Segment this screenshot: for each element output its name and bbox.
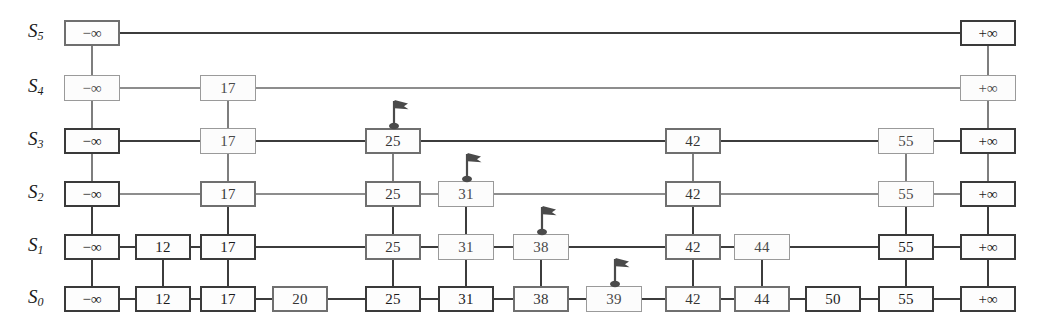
link-vertical (905, 207, 907, 234)
link-horizontal (569, 246, 665, 248)
skip-node-S4-17[interactable]: 17 (200, 75, 256, 101)
link-horizontal (642, 298, 665, 300)
row-label-letter: S (28, 286, 38, 307)
link-horizontal (934, 193, 960, 195)
row-label-S1: S1 (28, 234, 44, 258)
row-label-S2: S2 (28, 181, 44, 205)
link-horizontal (191, 298, 200, 300)
link-vertical (227, 101, 229, 128)
link-vertical (227, 260, 229, 286)
skip-node-S2-25[interactable]: 25 (365, 181, 421, 207)
link-vertical (91, 101, 93, 128)
link-horizontal (421, 298, 438, 300)
skip-node-S4-pos-inf[interactable]: +∞ (960, 75, 1016, 101)
link-vertical (692, 207, 694, 234)
link-vertical (987, 207, 989, 234)
link-horizontal (494, 193, 665, 195)
skip-node-S2-55[interactable]: 55 (878, 181, 934, 207)
skip-node-S5-neg-inf[interactable]: −∞ (64, 20, 120, 46)
skip-node-S0-38[interactable]: 38 (513, 286, 569, 312)
skip-node-S3-neg-inf[interactable]: −∞ (64, 128, 120, 154)
skip-node-S1-neg-inf[interactable]: −∞ (64, 234, 120, 260)
skip-node-S2-neg-inf[interactable]: −∞ (64, 181, 120, 207)
link-horizontal (861, 298, 878, 300)
link-vertical (987, 46, 989, 75)
link-horizontal (790, 246, 878, 248)
row-label-index: 0 (38, 295, 44, 309)
skip-node-S0-42[interactable]: 42 (665, 286, 721, 312)
skip-node-S2-pos-inf[interactable]: +∞ (960, 181, 1016, 207)
link-horizontal (256, 246, 365, 248)
row-label-letter: S (28, 128, 38, 149)
link-horizontal (421, 140, 665, 142)
row-label-letter: S (28, 75, 38, 96)
link-horizontal (790, 298, 805, 300)
skip-node-S1-44[interactable]: 44 (734, 234, 790, 260)
link-vertical (692, 260, 694, 286)
link-horizontal (421, 246, 438, 248)
link-vertical (227, 207, 229, 234)
link-horizontal (256, 140, 365, 142)
link-vertical (465, 260, 467, 286)
row-label-S4: S4 (28, 75, 44, 99)
skip-node-S0-50[interactable]: 50 (805, 286, 861, 312)
link-vertical (465, 207, 467, 234)
skip-node-S2-31[interactable]: 31 (438, 181, 494, 207)
skip-node-S0-pos-inf[interactable]: +∞ (960, 286, 1016, 312)
link-horizontal (934, 140, 960, 142)
skip-node-S5-pos-inf[interactable]: +∞ (960, 20, 1016, 46)
skip-node-S1-12[interactable]: 12 (135, 234, 191, 260)
link-vertical (91, 260, 93, 286)
link-vertical (540, 260, 542, 286)
skip-node-S0-20[interactable]: 20 (272, 286, 328, 312)
link-vertical (91, 207, 93, 234)
link-horizontal (120, 298, 135, 300)
skip-node-S1-17[interactable]: 17 (200, 234, 256, 260)
skip-node-S1-25[interactable]: 25 (365, 234, 421, 260)
skip-node-S0-31[interactable]: 31 (438, 286, 494, 312)
skip-node-S3-42[interactable]: 42 (665, 128, 721, 154)
link-horizontal (120, 87, 200, 89)
skip-node-S1-42[interactable]: 42 (665, 234, 721, 260)
skip-node-S1-pos-inf[interactable]: +∞ (960, 234, 1016, 260)
skip-node-S3-17[interactable]: 17 (200, 128, 256, 154)
link-vertical (91, 154, 93, 181)
skip-node-S0-12[interactable]: 12 (135, 286, 191, 312)
skip-node-S3-55[interactable]: 55 (878, 128, 934, 154)
search-position-flag-icon (536, 202, 562, 236)
link-horizontal (421, 193, 438, 195)
link-vertical (392, 260, 394, 286)
skip-node-S3-25[interactable]: 25 (365, 128, 421, 154)
link-horizontal (120, 193, 200, 195)
link-horizontal (328, 298, 365, 300)
link-vertical (392, 207, 394, 234)
skip-node-S0-neg-inf[interactable]: −∞ (64, 286, 120, 312)
skip-node-S1-38[interactable]: 38 (513, 234, 569, 260)
link-horizontal (120, 140, 200, 142)
link-vertical (162, 260, 164, 286)
link-horizontal (120, 32, 960, 34)
link-vertical (987, 154, 989, 181)
link-vertical (692, 154, 694, 181)
row-label-index: 3 (38, 137, 44, 151)
row-label-index: 4 (38, 84, 44, 98)
row-label-index: 1 (38, 243, 44, 257)
row-label-S5: S5 (28, 20, 44, 44)
search-position-flag-icon (388, 96, 414, 130)
link-vertical (91, 46, 93, 75)
row-label-S3: S3 (28, 128, 44, 152)
skip-node-S0-17[interactable]: 17 (200, 286, 256, 312)
row-label-index: 5 (38, 29, 44, 43)
skip-node-S0-25[interactable]: 25 (365, 286, 421, 312)
skip-node-S3-pos-inf[interactable]: +∞ (960, 128, 1016, 154)
link-vertical (987, 101, 989, 128)
skip-node-S2-17[interactable]: 17 (200, 181, 256, 207)
skip-node-S0-55[interactable]: 55 (878, 286, 934, 312)
skip-node-S1-31[interactable]: 31 (438, 234, 494, 260)
link-vertical (392, 154, 394, 181)
skip-node-S0-44[interactable]: 44 (734, 286, 790, 312)
skip-node-S1-55[interactable]: 55 (878, 234, 934, 260)
skip-node-S4-neg-inf[interactable]: −∞ (64, 75, 120, 101)
skip-node-S2-42[interactable]: 42 (665, 181, 721, 207)
skip-node-S0-39[interactable]: 39 (586, 286, 642, 312)
